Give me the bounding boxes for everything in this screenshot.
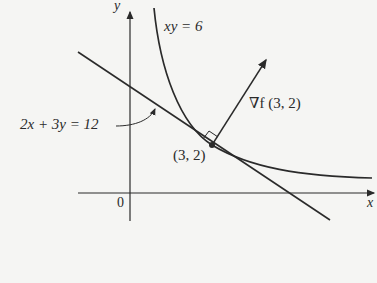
diagram: y x 0 xy = 6 2x + 3y = 12 (3, 2) ∇f (3, … bbox=[0, 0, 377, 283]
y-axis-label: y bbox=[114, 0, 120, 14]
curve-label: xy = 6 bbox=[164, 18, 202, 35]
diagram-canvas bbox=[0, 0, 377, 283]
line-label: 2x + 3y = 12 bbox=[20, 116, 99, 133]
origin-label: 0 bbox=[117, 195, 124, 211]
x-axis-label: x bbox=[367, 195, 373, 211]
gradient-label: ∇f (3, 2) bbox=[249, 94, 301, 112]
point-label: (3, 2) bbox=[173, 147, 206, 164]
tangent-line bbox=[78, 52, 330, 220]
line-label-leader bbox=[116, 109, 155, 126]
tangent-point bbox=[209, 142, 215, 148]
